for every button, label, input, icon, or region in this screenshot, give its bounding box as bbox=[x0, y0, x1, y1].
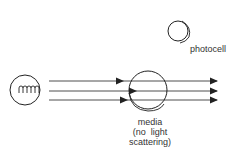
photocell-label: photocell bbox=[190, 44, 226, 54]
light-rays bbox=[49, 81, 217, 100]
media-label-line3: scattering) bbox=[129, 137, 171, 147]
media-circle-icon bbox=[129, 71, 167, 109]
photocell bbox=[168, 21, 190, 43]
lamp bbox=[10, 75, 40, 105]
media-shadow-arc-icon bbox=[129, 93, 164, 111]
light-transmission-diagram: photocell media (no light scattering) bbox=[0, 0, 234, 153]
media-label-line1: media bbox=[138, 117, 163, 127]
photocell-icon bbox=[168, 21, 188, 41]
media-label-line2: (no light bbox=[133, 127, 168, 137]
lamp-filament-icon bbox=[19, 86, 39, 93]
lamp-circle-icon bbox=[10, 75, 40, 105]
